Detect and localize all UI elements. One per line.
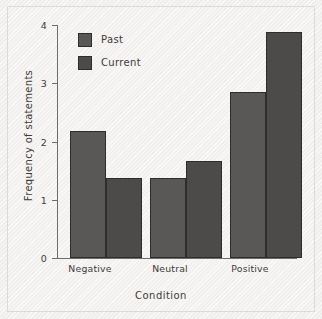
x-tick-label-negative: Negative [50,263,130,274]
y-tick-mark-3 [52,83,57,84]
chart-figure: 0 1 2 3 4 Negative Neutral Positive Cond… [0,0,322,319]
y-tick-mark-0 [52,258,57,259]
chart-legend: Past Current [78,28,141,74]
bar-negative-current [106,178,142,258]
bar-neutral-past [150,178,186,258]
bar-positive-current [266,32,302,258]
bar-negative-past [70,131,106,258]
y-tick-label-4: 4 [7,21,47,31]
legend-label-past: Past [101,35,123,45]
plot-area: 0 1 2 3 4 Negative Neutral Positive Cond… [0,0,322,319]
bar-neutral-current [186,161,222,258]
x-tick-label-neutral: Neutral [130,263,210,274]
legend-item-current: Current [78,51,141,74]
y-tick-label-0: 0 [7,254,47,264]
legend-swatch-past [78,33,92,47]
legend-swatch-current [78,56,92,70]
x-tick-label-positive: Positive [210,263,290,274]
y-tick-mark-1 [52,200,57,201]
legend-item-past: Past [78,28,141,51]
y-axis-line [57,25,58,259]
y-tick-mark-2 [52,142,57,143]
bar-positive-past [230,92,266,258]
legend-label-current: Current [101,58,141,68]
x-axis-title: Condition [0,290,322,301]
y-axis-title: Frequency of statements [23,36,34,236]
y-tick-mark-4 [52,25,57,26]
x-axis-line [57,258,297,259]
